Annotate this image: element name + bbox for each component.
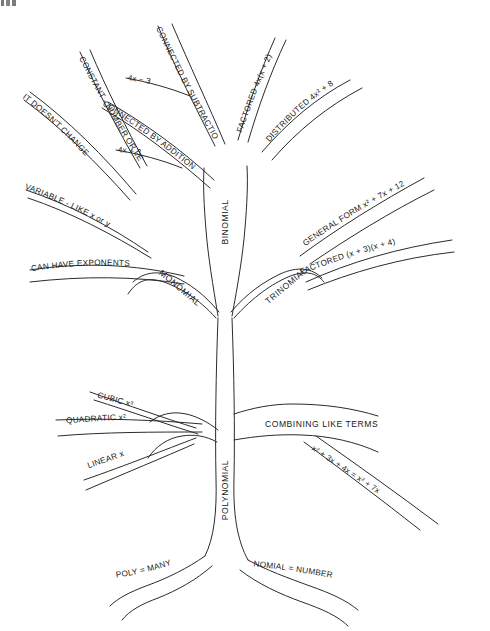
label-binomial: BINOMIAL xyxy=(220,199,230,244)
linear-outline-b xyxy=(86,444,194,490)
label-doesnt-change: IT DOESN'T CHANGE xyxy=(21,92,91,158)
label-can-have-exponents: CAN HAVE EXPONENTS xyxy=(30,258,130,273)
doesnt-change-branch-outline-b xyxy=(30,92,136,194)
quadratic-outline-b xyxy=(58,432,202,436)
binomial-outline-left xyxy=(204,168,218,316)
label-connected-by-addition: CONNECTED BY ADDITION xyxy=(101,99,197,171)
label-example-subtraction: 4x − 3 xyxy=(127,73,152,86)
label-quadratic: QUADRATIC x² xyxy=(66,413,126,426)
label-monomial-text: MONOMIAL xyxy=(157,268,202,308)
conn-subtraction-outline-b xyxy=(172,24,225,144)
label-cubic: CUBIC x³ xyxy=(96,391,134,409)
label-nomial-number: NOMIAL = NUMBER xyxy=(253,559,333,579)
degree-branch-outline-bottom xyxy=(148,435,217,458)
label-factored-trinomial: FACTORED (x + 3)(x + 4) xyxy=(299,237,397,276)
label-connected-by-subtraction: CONNECTED BY SUBTRACTION xyxy=(0,0,220,141)
label-variable: VARIABLE - LIKE x or y xyxy=(24,182,113,229)
exponents-branch-outline-b xyxy=(30,278,184,284)
label-example-addition: 4x + 3 xyxy=(117,145,142,157)
label-combining-example: x² + 3x + 4x = x² + 7x xyxy=(310,444,381,496)
binomial-outline-right xyxy=(232,166,247,316)
label-poly-many: POLY = MANY xyxy=(115,558,172,580)
polynomial-tree-svg: POLYNOMIAL MONOMIAL BINOMIAL TRINOMIAL C… xyxy=(0,0,490,631)
branch-labels: POLYNOMIAL MONOMIAL BINOMIAL TRINOMIAL C… xyxy=(0,0,406,580)
variable-branch-outline-b xyxy=(28,198,151,258)
label-polynomial: POLYNOMIAL xyxy=(220,460,230,520)
scan-artifact-mark xyxy=(1,0,18,6)
diagram-canvas: POLYNOMIAL MONOMIAL BINOMIAL TRINOMIAL C… xyxy=(0,0,490,631)
trunk-outline-left xyxy=(205,318,218,556)
label-combining-like-terms: COMBINING LIKE TERMS xyxy=(265,419,378,429)
combining-branch-outline-top xyxy=(234,404,378,416)
branch-outlines xyxy=(24,24,454,626)
distributed-outline-a xyxy=(262,80,350,152)
equation-branch-outline-b xyxy=(316,436,438,524)
general-form-outline-a xyxy=(300,178,424,256)
